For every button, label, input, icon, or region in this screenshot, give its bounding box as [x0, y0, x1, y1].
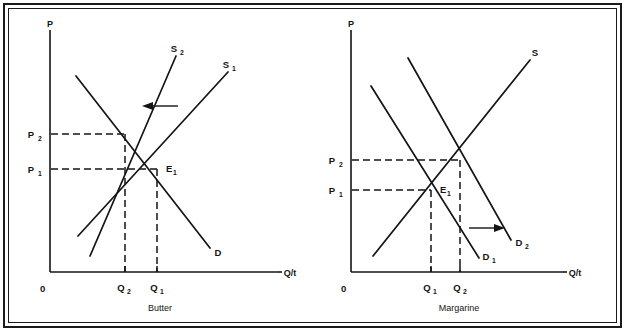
- butter-s2-base: S: [171, 43, 177, 54]
- butter-q2-base: Q: [117, 282, 124, 293]
- margarine-q1-base: Q: [423, 282, 430, 293]
- margarine-supply-curve-s: [373, 60, 530, 256]
- butter-panel-caption: Butter: [148, 303, 172, 313]
- margarine-demand-curve-d1: [371, 86, 479, 258]
- butter-q2-sub: 2: [127, 288, 131, 295]
- butter-p1-sub: 1: [38, 170, 42, 177]
- butter-quantity-label-q1: Q 1: [150, 282, 164, 295]
- butter-curve-label-s2: S 2: [171, 43, 184, 56]
- margarine-d1-sub: 1: [492, 257, 496, 264]
- butter-curve-label-d: D: [215, 247, 222, 258]
- butter-supply-curve-s2: [90, 56, 176, 256]
- margarine-y-axis-label: P: [348, 19, 354, 29]
- panel-butter: P Q/t 0 P 2 P 1 Q 2 Q 1: [10, 8, 310, 323]
- butter-p1-base: P: [28, 164, 35, 175]
- margarine-d2-base: D: [516, 237, 523, 248]
- margarine-chart-svg: P Q/t 0 P 2 P 1 Q 1 Q 2: [313, 8, 613, 323]
- margarine-quantity-label-q2: Q 2: [453, 282, 467, 295]
- margarine-d1-base: D: [483, 251, 490, 262]
- margarine-q1-sub: 1: [433, 288, 437, 295]
- margarine-price-label-p1: P 1: [329, 185, 343, 198]
- margarine-equilibrium-label-e1: E 1: [440, 184, 451, 197]
- butter-origin-label: 0: [40, 283, 45, 294]
- butter-s1-sub: 1: [232, 65, 236, 72]
- butter-equilibrium-label-e1: E 1: [166, 163, 177, 176]
- margarine-curve-label-d2: D 2: [516, 237, 529, 250]
- margarine-curve-label-d1: D 1: [483, 251, 496, 264]
- butter-s1-base: S: [223, 59, 229, 70]
- butter-quantity-label-q2: Q 2: [117, 282, 131, 295]
- butter-s2-sub: 2: [180, 49, 184, 56]
- butter-y-axis-label: P: [47, 19, 53, 29]
- margarine-origin-label: 0: [341, 283, 346, 294]
- butter-q1-base: Q: [150, 282, 157, 293]
- margarine-p1-base: P: [329, 185, 336, 196]
- butter-price-label-p1: P 1: [28, 164, 42, 177]
- butter-chart-svg: P Q/t 0 P 2 P 1 Q 2 Q 1: [10, 8, 310, 323]
- butter-p2-base: P: [28, 129, 35, 140]
- margarine-demand-curve-d2: [408, 58, 511, 240]
- margarine-x-axis-label: Q/t: [569, 268, 582, 278]
- margarine-quantity-label-q1: Q 1: [423, 282, 437, 295]
- margarine-d2-sub: 2: [525, 243, 529, 250]
- butter-price-label-p2: P 2: [28, 129, 42, 142]
- margarine-q2-sub: 2: [463, 288, 467, 295]
- butter-e1-sub: 1: [173, 169, 177, 176]
- margarine-shift-arrow-icon: [469, 224, 505, 232]
- butter-q1-sub: 1: [160, 288, 164, 295]
- margarine-q2-base: Q: [453, 282, 460, 293]
- butter-curve-label-s1: S 1: [223, 59, 236, 72]
- butter-p2-sub: 2: [38, 135, 42, 142]
- butter-x-axis-label: Q/t: [284, 268, 297, 278]
- margarine-p2-base: P: [329, 155, 336, 166]
- margarine-curve-label-s: S: [532, 47, 538, 58]
- butter-e1-base: E: [166, 163, 172, 174]
- margarine-e1-base: E: [440, 184, 446, 195]
- figure-root: P Q/t 0 P 2 P 1 Q 2 Q 1: [0, 0, 625, 331]
- margarine-s-base: S: [532, 47, 538, 58]
- margarine-e1-sub: 1: [447, 190, 451, 197]
- margarine-p2-sub: 2: [339, 161, 343, 168]
- butter-shift-arrow-icon: [142, 102, 178, 110]
- butter-axes: [50, 30, 278, 272]
- margarine-price-label-p2: P 2: [329, 155, 343, 168]
- butter-supply-curve-s1: [78, 72, 228, 236]
- panel-margarine: P Q/t 0 P 2 P 1 Q 1 Q 2: [313, 8, 613, 323]
- margarine-panel-caption: Margarine: [439, 303, 480, 313]
- margarine-p1-sub: 1: [339, 191, 343, 198]
- butter-d-base: D: [215, 247, 222, 258]
- butter-demand-curve-d: [76, 76, 210, 248]
